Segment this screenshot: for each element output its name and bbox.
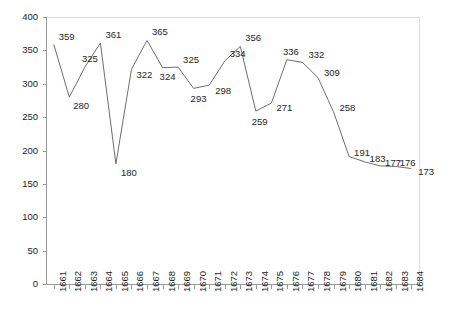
x-tick-label: 1661: [58, 271, 68, 292]
y-tick: [43, 217, 47, 218]
data-point-label: 365: [152, 27, 168, 37]
x-tick-label: 1674: [260, 271, 270, 292]
x-tick-label: 1682: [384, 271, 394, 292]
x-tick: [271, 285, 272, 289]
x-tick: [240, 285, 241, 289]
y-tick: [43, 50, 47, 51]
x-tick: [287, 285, 288, 289]
data-point-label: 359: [59, 32, 75, 42]
x-tick: [116, 285, 117, 289]
y-tick-label: 100: [8, 212, 38, 222]
y-tick: [43, 284, 47, 285]
x-tick-label: 1666: [135, 271, 145, 292]
data-point-label: 309: [324, 68, 340, 78]
data-point-label: 325: [82, 54, 98, 64]
data-point-label: 356: [245, 33, 261, 43]
x-tick-label: 1679: [338, 271, 348, 292]
data-point-label: 176: [400, 158, 416, 168]
x-tick: [163, 285, 164, 289]
x-tick: [131, 285, 132, 289]
x-tick-label: 1664: [104, 271, 114, 292]
data-point-label: 361: [105, 30, 121, 40]
data-point-label: 298: [215, 86, 231, 96]
x-tick-label: 1676: [291, 271, 301, 292]
x-tick: [349, 285, 350, 289]
y-tick: [43, 117, 47, 118]
data-point-label: 336: [283, 47, 299, 57]
y-tick-label: 400: [8, 12, 38, 22]
y-tick-label: 0: [8, 279, 38, 289]
x-tick: [194, 285, 195, 289]
data-point-label: 334: [230, 49, 246, 59]
plot-frame-top: [46, 17, 420, 18]
y-tick: [43, 84, 47, 85]
x-tick-label: 1670: [198, 271, 208, 292]
x-tick: [334, 285, 335, 289]
plot-frame-right: [419, 17, 420, 284]
data-point-label: 324: [160, 72, 176, 82]
x-tick: [85, 285, 86, 289]
x-tick: [302, 285, 303, 289]
data-point-label: 293: [191, 94, 207, 104]
y-tick-label: 50: [8, 246, 38, 256]
y-tick-label: 150: [8, 179, 38, 189]
x-tick-label: 1683: [400, 271, 410, 292]
data-point-label: 325: [183, 55, 199, 65]
x-tick-label: 1671: [213, 271, 223, 292]
x-tick: [318, 285, 319, 289]
x-tick: [147, 285, 148, 289]
data-point-label: 322: [137, 70, 153, 80]
x-tick-label: 1667: [151, 271, 161, 292]
y-tick: [43, 251, 47, 252]
x-tick: [178, 285, 179, 289]
x-tick-label: 1662: [73, 271, 83, 292]
x-tick-label: 1684: [415, 271, 425, 292]
x-tick-label: 1669: [182, 271, 192, 292]
x-tick-label: 1663: [89, 271, 99, 292]
x-tick: [100, 285, 101, 289]
y-tick: [43, 151, 47, 152]
data-point-label: 177: [385, 158, 401, 168]
line-chart: 0501001502002503003504001661166216631664…: [0, 0, 454, 332]
x-tick: [54, 285, 55, 289]
data-point-label: 280: [73, 101, 89, 111]
x-tick: [225, 285, 226, 289]
data-point-label: 259: [252, 117, 268, 127]
x-tick-label: 1672: [229, 271, 239, 292]
data-point-label: 173: [418, 167, 434, 177]
x-tick-label: 1681: [369, 271, 379, 292]
data-point-label: 258: [340, 103, 356, 113]
data-point-label: 183: [370, 154, 386, 164]
x-tick-label: 1678: [322, 271, 332, 292]
x-tick: [209, 285, 210, 289]
data-point-label: 332: [308, 50, 324, 60]
x-tick: [256, 285, 257, 289]
x-tick-label: 1677: [306, 271, 316, 292]
data-point-label: 180: [121, 168, 137, 178]
data-point-label: 271: [276, 103, 292, 113]
y-tick-label: 350: [8, 45, 38, 55]
x-tick-label: 1665: [120, 271, 130, 292]
x-tick-label: 1668: [167, 271, 177, 292]
y-tick-label: 300: [8, 79, 38, 89]
x-tick: [380, 285, 381, 289]
y-tick-label: 250: [8, 112, 38, 122]
x-tick: [365, 285, 366, 289]
x-tick: [69, 285, 70, 289]
y-tick-label: 200: [8, 146, 38, 156]
y-tick: [43, 184, 47, 185]
x-tick: [411, 285, 412, 289]
x-tick-label: 1680: [353, 271, 363, 292]
x-tick: [396, 285, 397, 289]
y-tick: [43, 17, 47, 18]
x-tick-label: 1675: [275, 271, 285, 292]
x-tick-label: 1673: [244, 271, 254, 292]
data-point-label: 191: [354, 148, 370, 158]
